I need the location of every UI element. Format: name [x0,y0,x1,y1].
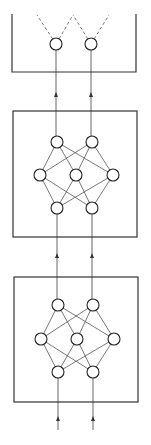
neuron-node-b3 [107,169,119,181]
arrow-in-left [56,372,60,430]
neuron-node-f1 [52,366,64,378]
neuron-node-a2 [86,136,98,148]
neuron-node-f2 [87,366,99,378]
network-blocks [12,14,138,402]
arrow-mid-left [55,208,59,305]
block-frame [12,14,136,72]
neural-network-stack-diagram [0,0,151,445]
hidden-block-2 [13,111,137,237]
neuron-node-c2 [86,202,98,214]
arrow-top-left [54,50,58,142]
neuron-node-c1 [51,202,63,214]
dashed-output-line [37,15,53,39]
hidden-block-1 [14,277,138,402]
arrow-mid-right [90,208,94,305]
neuron-node-b2 [70,169,82,181]
output-node-o1 [50,38,62,50]
arrowhead-icon [54,92,58,97]
neuron-node-b1 [34,169,46,181]
dashed-output-line [94,15,109,39]
neuron-node-e2 [71,333,83,345]
output-block [12,14,136,72]
neuron-node-e1 [35,333,47,345]
arrowhead-icon [56,416,60,421]
neuron-node-d2 [87,299,99,311]
dashed-output-line [73,15,88,39]
arrow-top-right [89,50,93,142]
arrowhead-icon [91,416,95,421]
arrow-in-right [91,372,95,430]
output-node-o2 [85,38,97,50]
neuron-node-a1 [51,136,63,148]
neuron-node-d1 [52,299,64,311]
arrowhead-icon [89,92,93,97]
arrowhead-icon [90,253,94,258]
dashed-output-line [59,15,73,39]
neuron-node-e3 [108,333,120,345]
arrowhead-icon [55,253,59,258]
